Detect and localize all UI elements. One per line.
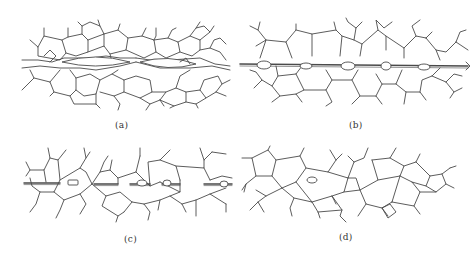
grain-boundary-b [396, 84, 426, 100]
grain-boundary-c [102, 196, 124, 216]
grain-boundary-b [304, 70, 332, 90]
grain-boundary-d [358, 204, 366, 216]
panel-b-grain-network [240, 18, 470, 106]
grain-boundary-c [100, 156, 108, 172]
grain-boundary-c [30, 148, 50, 170]
grain-boundary-d [450, 166, 456, 168]
grain-boundary-c [26, 162, 30, 176]
junction-a [44, 50, 56, 62]
pore-b [381, 62, 391, 70]
grain-boundary-d [318, 210, 342, 212]
panel-label-c: (c) [124, 234, 137, 244]
grain-boundary-b [266, 40, 292, 58]
small-grain-d [382, 204, 396, 218]
grain-boundary-b [326, 90, 332, 106]
panel-c-grain-network [24, 148, 232, 222]
grain-boundary-c [56, 200, 64, 218]
grain-boundary-a [50, 70, 60, 82]
grain-boundary-c [80, 148, 86, 168]
grain-boundary-d [306, 154, 342, 172]
panel-label-a: (a) [115, 120, 128, 130]
grain-boundary-b [296, 30, 312, 56]
grain-boundary-b [426, 38, 456, 52]
grain-boundary-a [200, 48, 226, 60]
grain-boundary-d [250, 176, 282, 210]
grain-boundary-c [204, 168, 210, 180]
grain-boundary-a [112, 70, 118, 74]
grain-boundary-c [160, 160, 180, 180]
grain-boundary-b [296, 74, 304, 94]
grain-boundary-a [100, 74, 124, 96]
grain-boundary-c [44, 170, 46, 182]
grain-boundary-b [412, 20, 420, 36]
grain-boundary-a [160, 88, 186, 106]
grain-structure-figure [0, 0, 473, 265]
grain-boundary-a [222, 80, 230, 84]
grain-boundary-d [276, 148, 304, 160]
grain-boundary-b [272, 86, 280, 102]
grain-boundary-a [146, 104, 150, 110]
grain-boundary-d [372, 148, 396, 160]
pore-c [220, 181, 228, 187]
grain-boundary-b [420, 68, 440, 92]
isolated-pore-c [68, 180, 78, 185]
grain-boundary-c [92, 184, 150, 220]
grain-boundary-b [334, 22, 336, 30]
grain-boundary-a [118, 24, 120, 30]
grain-boundary-a [170, 106, 174, 108]
grain-boundary-c [144, 192, 180, 204]
grain-boundary-d [258, 202, 264, 212]
pore-b [341, 62, 355, 70]
grain-boundary-d [392, 176, 400, 202]
grain-boundary-a [126, 36, 156, 58]
grain-boundary-c [50, 150, 66, 160]
grain-boundary-c [80, 194, 86, 214]
grain-boundary-b [250, 70, 262, 88]
grain-boundary-d [348, 178, 360, 190]
grain-boundary-b [280, 94, 302, 102]
grain-boundary-a [168, 28, 176, 38]
grain-boundary-a [196, 104, 198, 108]
grain-boundary-d [252, 150, 276, 176]
grain-boundary-b [404, 36, 426, 48]
grain-boundary-b [456, 30, 466, 42]
grain-boundary-a [216, 92, 226, 96]
pore-b [300, 63, 312, 69]
grain-boundary-a [142, 28, 146, 36]
grain-boundary-b [342, 36, 362, 56]
grain-boundary-b [404, 92, 406, 104]
grain-boundary-b [362, 30, 386, 50]
grain-boundary-a [186, 90, 206, 104]
isolated-pore-d [307, 177, 317, 183]
grain-boundary-c [210, 176, 232, 180]
grain-boundary-d [446, 184, 454, 188]
grain-boundary-d [256, 190, 266, 196]
grain-boundary-d [330, 150, 336, 160]
grain-boundary-a [176, 70, 190, 88]
grain-boundary-c [86, 152, 90, 158]
grain-boundary-a [62, 34, 88, 56]
grain-boundary-b [446, 74, 462, 82]
grain-boundary-b [352, 80, 360, 104]
grain-boundary-d [412, 176, 430, 186]
grain-boundary-c [176, 152, 212, 168]
grain-boundary-d [348, 156, 354, 162]
grain-boundary-b [454, 88, 462, 92]
grain-boundary-c [210, 194, 226, 204]
grain-boundary-d [332, 178, 348, 196]
grain-boundary-d [282, 188, 294, 216]
grain-boundary-c [92, 170, 118, 184]
grain-boundary-b [286, 24, 296, 42]
grain-boundary-c [124, 202, 132, 212]
grain-boundary-b [456, 42, 468, 50]
grain-boundary-a [140, 92, 166, 104]
grain-boundary-b [278, 66, 302, 76]
grain-boundary-c [200, 148, 204, 160]
grain-boundary-a [210, 38, 226, 48]
pore-b [418, 64, 430, 70]
grain-boundary-a [210, 26, 214, 32]
grain-boundary-a [190, 26, 210, 40]
pore-c [163, 180, 171, 186]
grain-boundary-b [376, 74, 382, 84]
grain-boundary-c [110, 160, 112, 170]
